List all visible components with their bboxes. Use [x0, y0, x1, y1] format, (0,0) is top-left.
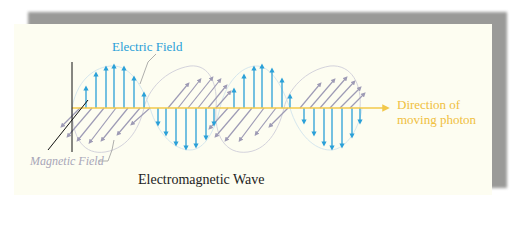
direction-label-line2: moving photon — [397, 112, 476, 127]
magnetic-field-label: Magnetic Field — [30, 155, 104, 167]
magnetic-field-arrows — [62, 78, 364, 142]
electric-field-label: Electric Field — [112, 40, 182, 53]
diagonal-axis — [48, 100, 88, 150]
electric-field-leader — [140, 54, 156, 84]
direction-label-line1: Direction of — [397, 97, 476, 112]
diagram-title: Electromagnetic Wave — [138, 173, 265, 187]
electric-field-wave — [86, 66, 360, 148]
direction-label: Direction of moving photon — [397, 97, 476, 127]
